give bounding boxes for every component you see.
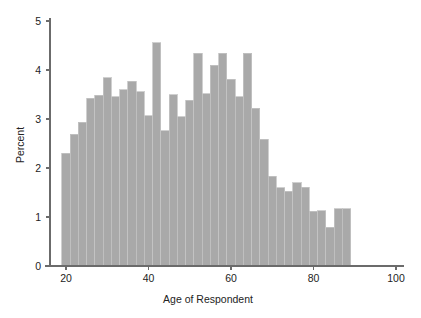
x-tick-label: 60 [225,272,237,284]
histogram-bar [103,78,111,266]
histogram-bar [309,211,317,266]
histogram-bar [186,100,194,266]
histogram-bar [252,108,260,266]
histogram-bar [177,117,185,266]
x-tick-label: 80 [308,272,320,284]
histogram-bar [87,98,95,266]
y-tick-label: 3 [35,113,41,125]
y-tick-labels: 012345 [35,15,41,272]
histogram-bar [293,183,301,266]
histogram-bar [243,53,251,266]
histogram-bar [128,81,136,266]
histogram-bar [111,97,119,266]
histogram-bar [70,134,78,266]
y-tick-label: 2 [35,162,41,174]
histogram-bar [153,43,161,266]
histogram-bar [268,176,276,266]
histogram-bar [120,90,128,266]
histogram-bar [219,53,227,266]
histogram-bar [227,79,235,266]
bars-group [62,43,351,266]
x-tick-label: 100 [387,272,405,284]
y-tick-label: 4 [35,64,41,76]
histogram-bar [260,139,268,266]
histogram-bar [78,122,86,266]
histogram-bar [318,211,326,266]
histogram-bar [62,153,70,266]
histogram-bar [334,209,342,266]
y-axis-title: Percent [14,127,26,163]
histogram-bar [276,188,284,266]
histogram-bar [202,94,210,266]
x-tick-labels: 20406080100 [60,272,405,284]
histogram-bar [342,209,350,266]
histogram-bar [194,53,202,266]
histogram-bar [161,131,169,266]
x-tick-label: 40 [143,272,155,284]
histogram-bar [169,95,177,266]
x-axis-title: Age of Respondent [163,293,253,305]
histogram-bar [144,116,152,266]
chart-svg: 20406080100 012345 Age of Respondent Per… [0,0,421,318]
y-tick-label: 1 [35,211,41,223]
histogram-bar [326,227,334,266]
x-tick-label: 20 [60,272,72,284]
histogram-bar [235,97,243,266]
y-tick-label: 5 [35,15,41,27]
histogram-bar [285,191,293,266]
histogram-bar [301,187,309,266]
histogram-chart: 20406080100 012345 Age of Respondent Per… [0,0,421,318]
histogram-bar [136,92,144,266]
histogram-bar [95,95,103,266]
histogram-bar [210,65,218,266]
y-tick-label: 0 [35,260,41,272]
